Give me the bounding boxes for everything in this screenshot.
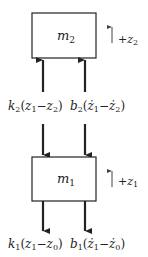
spring-force-label-k2: k2(z1−z2): [8, 99, 63, 114]
svg-text:+z1: +z1: [118, 175, 138, 189]
mass-m2-block: m2: [32, 13, 96, 58]
damper-force-label-b2: b2(ż1−ż2): [70, 99, 125, 114]
direction-indicator-z1: +z1: [112, 171, 138, 189]
damper-force-label-b1: b1(ż1−ż0): [70, 237, 125, 252]
direction-indicator-z2: +z2: [112, 27, 138, 47]
svg-text:+z2: +z2: [118, 33, 138, 47]
mass-m1-block: m1: [32, 157, 96, 201]
spring-force-label-k1: k1(z1−z0): [8, 237, 63, 252]
free-body-diagram: m2 +z2 k2(z1−z2) b2(ż1−ż2) m1 +z1 k1(z1−…: [0, 0, 148, 257]
